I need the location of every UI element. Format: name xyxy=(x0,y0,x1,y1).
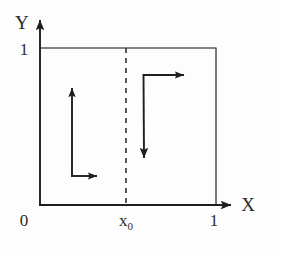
phase-diagram-svg: Y 1 0 x0 1 X xyxy=(0,0,281,254)
y-tick-label-1: 1 xyxy=(20,40,29,59)
x-tick-label-x0: x0 xyxy=(119,211,134,232)
x-axis-label: X xyxy=(241,194,255,215)
figure-root: Y 1 0 x0 1 X xyxy=(0,0,281,254)
origin-label: 0 xyxy=(20,211,29,230)
right-trajectory-down-segment xyxy=(144,74,145,158)
x-tick-label-1: 1 xyxy=(210,211,219,230)
x0-subscript: 0 xyxy=(128,220,134,232)
y-axis-label: Y xyxy=(15,12,29,33)
